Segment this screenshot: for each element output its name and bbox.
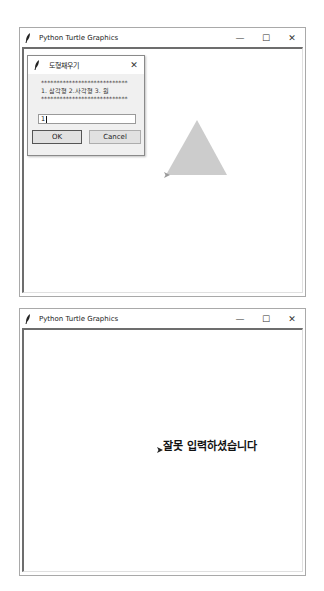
dialog-title-bar[interactable]: 도형채우기 ✕ xyxy=(28,56,144,74)
prompt-line: 1. 삼각형 2.사각형 3. 원 xyxy=(41,87,128,95)
title-bar[interactable]: Python Turtle Graphics — ☐ ✕ xyxy=(20,309,305,328)
window-title: Python Turtle Graphics xyxy=(39,315,227,323)
minimize-button[interactable]: — xyxy=(227,309,253,328)
maximize-button[interactable]: ☐ xyxy=(253,309,279,328)
dialog-title: 도형채우기 xyxy=(49,60,124,70)
maximize-button[interactable]: ☐ xyxy=(253,28,279,47)
dialog-body: ****************************1. 삼각형 2.사각형… xyxy=(28,74,144,155)
dialog-prompt: ****************************1. 삼각형 2.사각형… xyxy=(41,79,128,103)
input-value: 1 xyxy=(41,115,45,123)
feather-icon xyxy=(25,314,35,324)
cancel-button[interactable]: Cancel xyxy=(89,130,141,144)
feather-icon xyxy=(25,33,35,43)
prompt-line: **************************** xyxy=(41,95,128,103)
window-title: Python Turtle Graphics xyxy=(39,34,227,42)
feather-icon xyxy=(34,60,44,70)
close-button[interactable]: ✕ xyxy=(279,28,305,47)
input-dialog: 도형채우기 ✕ ****************************1. 삼… xyxy=(27,55,145,156)
title-bar[interactable]: Python Turtle Graphics — ☐ ✕ xyxy=(20,28,305,47)
minimize-button[interactable]: — xyxy=(227,28,253,47)
error-message: 잘못 입력하셨습니다 xyxy=(163,437,257,453)
shape-input[interactable]: 1 xyxy=(38,114,136,124)
ok-button[interactable]: OK xyxy=(32,130,82,144)
text-caret xyxy=(46,116,47,123)
close-button[interactable]: ✕ xyxy=(279,309,305,328)
prompt-line: **************************** xyxy=(41,79,128,87)
dialog-close-button[interactable]: ✕ xyxy=(124,60,144,70)
filled-triangle xyxy=(166,120,227,175)
